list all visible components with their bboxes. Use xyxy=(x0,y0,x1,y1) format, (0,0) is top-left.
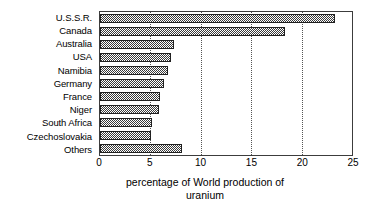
bar-row xyxy=(100,12,352,25)
bar-row xyxy=(100,129,352,142)
x-tick-label-0: 0 xyxy=(96,157,102,169)
category-label-namibia: Namibia xyxy=(0,64,96,77)
x-tick-label-25: 25 xyxy=(347,157,358,169)
bar-row xyxy=(100,116,352,129)
bar-czechoslovakia xyxy=(100,131,151,140)
bar-canada xyxy=(100,27,285,36)
x-tick-label-15: 15 xyxy=(246,157,257,169)
category-axis-labels: U.S.S.R. Canada Australia USA Namibia Ge… xyxy=(0,11,96,156)
category-label-germany: Germany xyxy=(0,77,96,90)
category-label-canada: Canada xyxy=(0,24,96,37)
category-label-czechoslovakia: Czechoslovakia xyxy=(0,130,96,143)
bar-usa xyxy=(100,53,171,62)
x-axis-tick-labels: 0510152025 xyxy=(99,157,353,171)
bar-row xyxy=(100,64,352,77)
bar-namibia xyxy=(100,66,168,75)
x-axis-title: percentage of World production of uraniu… xyxy=(60,176,350,202)
x-tick-label-10: 10 xyxy=(195,157,206,169)
bar-row xyxy=(100,90,352,103)
bar-niger xyxy=(100,105,159,114)
category-label-usa: USA xyxy=(0,51,96,64)
bar-row xyxy=(100,25,352,38)
category-label-france: France xyxy=(0,90,96,103)
category-label-ussr: U.S.S.R. xyxy=(0,11,96,24)
bar-row xyxy=(100,38,352,51)
plot-area xyxy=(99,11,353,156)
x-axis-title-line-1: percentage of World production of xyxy=(60,176,350,189)
category-label-others: Others xyxy=(0,143,96,156)
bar-others xyxy=(100,144,182,153)
x-tick-label-20: 20 xyxy=(297,157,308,169)
x-tick-label-5: 5 xyxy=(147,157,153,169)
bar-germany xyxy=(100,79,164,88)
x-axis-title-line-2: uranium xyxy=(60,189,350,202)
bar-row xyxy=(100,77,352,90)
bar-u-s-s-r xyxy=(100,14,335,23)
bar-series xyxy=(100,12,352,155)
bar-row xyxy=(100,51,352,64)
bar-row xyxy=(100,142,352,155)
category-label-south-africa: South Africa xyxy=(0,117,96,130)
category-label-niger: Niger xyxy=(0,103,96,116)
bar-australia xyxy=(100,40,174,49)
bar-row xyxy=(100,103,352,116)
uranium-production-bar-chart: U.S.S.R. Canada Australia USA Namibia Ge… xyxy=(0,0,381,211)
bar-south-africa xyxy=(100,118,152,127)
bar-france xyxy=(100,92,160,101)
category-label-australia: Australia xyxy=(0,37,96,50)
